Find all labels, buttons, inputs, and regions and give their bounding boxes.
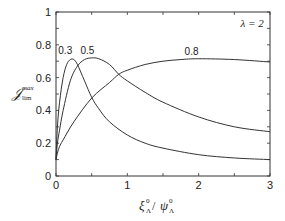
axes-box xyxy=(56,12,270,176)
x-axis-label-num-sup: 0 xyxy=(146,197,150,205)
x-tick-label: 0 xyxy=(53,179,59,191)
curve-label-0.5: 0.5 xyxy=(80,45,94,56)
data-curves xyxy=(56,58,270,160)
curve-label-0.3: 0.3 xyxy=(58,45,72,56)
x-axis-label-num: ξ xyxy=(139,198,145,213)
y-axis-label: 𝒥 max lim xyxy=(11,84,35,102)
curve-0.5 xyxy=(56,58,270,160)
x-axis-label-den-sup: 0 xyxy=(169,197,173,205)
y-tick-label: 0.4 xyxy=(36,104,51,116)
y-axis-label-sub: lim xyxy=(22,94,32,102)
curve-0.3 xyxy=(56,59,270,160)
x-axis-label-den-sub: Λ xyxy=(169,207,174,215)
x-tick-label: 3 xyxy=(267,179,273,191)
x-axis-label-num-sub: Λ xyxy=(146,207,151,215)
x-tick-label: 2 xyxy=(196,179,202,191)
y-tick-label: 0.2 xyxy=(36,137,51,149)
y-tick-label: 1 xyxy=(45,6,51,18)
lambda-annotation: λ = 2 xyxy=(240,17,265,29)
x-tick-label: 1 xyxy=(124,179,130,191)
y-tick-label: 0.8 xyxy=(36,39,51,51)
x-axis-label-sep: / xyxy=(152,199,156,213)
y-axis-label-sup: max xyxy=(22,84,35,92)
axis-ticks xyxy=(56,12,270,176)
x-axis-label-den: ψ xyxy=(160,198,169,213)
curve-labels: 0.30.50.8 xyxy=(58,45,199,57)
tick-labels: 012300.20.40.60.81 xyxy=(36,6,273,191)
y-tick-label: 0 xyxy=(45,170,51,182)
x-axis-label: ξ 0 Λ / ψ 0 Λ xyxy=(139,197,174,215)
plot-frame xyxy=(56,12,270,176)
line-chart: 012300.20.40.60.81 0.30.50.8 λ = 2 𝒥 max… xyxy=(0,0,285,221)
y-tick-label: 0.6 xyxy=(36,72,51,84)
curve-0.8 xyxy=(56,59,270,160)
curve-label-0.8: 0.8 xyxy=(185,46,199,57)
annotations: λ = 2 xyxy=(240,17,265,29)
